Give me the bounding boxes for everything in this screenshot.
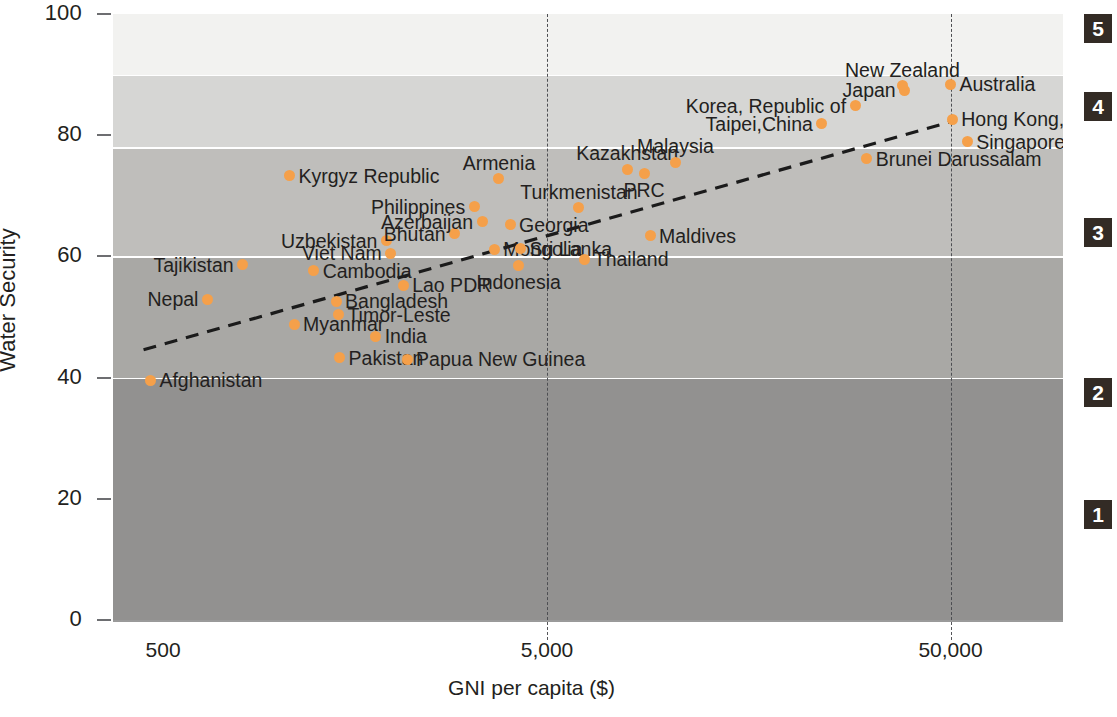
data-point[interactable] [945, 79, 956, 90]
data-point[interactable] [899, 85, 910, 96]
point-label: Armenia [463, 153, 536, 172]
data-point[interactable] [513, 260, 524, 271]
point-label: Nepal [147, 290, 198, 309]
point-label: PRC [624, 181, 665, 200]
data-point[interactable] [145, 375, 156, 386]
y-tick-mark [97, 498, 111, 500]
x-axis-line [113, 620, 1063, 622]
chart-figure: Water Security 100806040200 AfghanistanN… [0, 0, 1117, 717]
y-tick-label: 0 [20, 606, 82, 632]
data-point[interactable] [947, 114, 958, 125]
point-label: Japan [843, 81, 896, 100]
data-point[interactable] [850, 100, 861, 111]
point-label: Taipei,China [706, 114, 813, 133]
data-point[interactable] [202, 294, 213, 305]
band-chip-3: 3 [1084, 218, 1112, 247]
point-label: Timor-Leste [347, 305, 450, 324]
x-axis-title: GNI per capita ($) [0, 676, 1063, 700]
data-point[interactable] [477, 216, 488, 227]
band-chip-5: 5 [1084, 14, 1112, 43]
band-chip-2: 2 [1084, 378, 1112, 407]
point-label: Indonesia [476, 273, 561, 292]
data-point[interactable] [331, 296, 342, 307]
data-point[interactable] [645, 230, 656, 241]
point-label: Hong Kong, China [961, 110, 1063, 129]
x-tick-label: 500 [146, 638, 181, 662]
plot-area: AfghanistanNepalTajikistanMyanmarKyrgyz … [113, 14, 1063, 620]
data-point[interactable] [639, 168, 650, 179]
y-tick-label: 100 [20, 0, 82, 26]
point-label: Kyrgyz Republic [299, 166, 440, 185]
data-point[interactable] [402, 354, 413, 365]
point-label: New Zealand [845, 60, 960, 79]
data-point[interactable] [489, 244, 500, 255]
data-point[interactable] [398, 280, 409, 291]
x-tick-label: 50,000 [918, 638, 982, 662]
point-label: Azerbaijan [381, 212, 473, 231]
y-tick-label: 20 [20, 485, 82, 511]
y-tick-mark [97, 13, 111, 15]
y-tick-label: 60 [20, 242, 82, 268]
data-point[interactable] [505, 219, 516, 230]
data-point[interactable] [370, 331, 381, 342]
point-label: Korea, Republic of [686, 96, 846, 115]
data-point[interactable] [289, 319, 300, 330]
point-label: Papua New Guinea [416, 350, 585, 369]
point-label: Thailand [594, 250, 669, 269]
point-label: Cambodia [323, 261, 412, 280]
band-chip-1: 1 [1084, 500, 1112, 529]
point-label: Tajikistan [153, 255, 233, 274]
data-point[interactable] [622, 164, 633, 175]
point-label: Malaysia [637, 137, 714, 156]
point-label: Turkmenistan [520, 182, 637, 201]
band-chip-4: 4 [1084, 92, 1112, 121]
y-axis-title: Water Security [0, 228, 21, 371]
point-label: Maldives [659, 226, 736, 245]
data-point[interactable] [670, 157, 681, 168]
y-tick-label: 40 [20, 364, 82, 390]
point-label: Viet Nam [302, 244, 382, 263]
data-point[interactable] [333, 309, 344, 320]
y-tick-mark [97, 377, 111, 379]
y-tick-mark [97, 134, 111, 136]
y-tick-label: 80 [20, 121, 82, 147]
point-label: Georgia [519, 215, 588, 234]
trend-line [113, 14, 1063, 620]
point-label: Australia [960, 75, 1036, 94]
point-label: Singapore [976, 132, 1063, 151]
x-tick-label: 5,000 [521, 638, 574, 662]
point-label: Afghanistan [159, 371, 262, 390]
y-tick-mark [97, 619, 111, 621]
y-tick-mark [97, 255, 111, 257]
point-label: India [385, 327, 427, 346]
